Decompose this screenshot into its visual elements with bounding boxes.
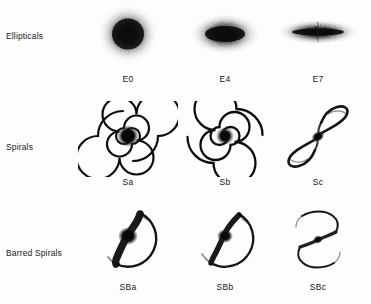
- row-spirals: Spirals: [0, 101, 371, 202]
- row-ellipticals: Ellipticals: [0, 0, 371, 101]
- spiral-galaxy-sc-icon: [268, 101, 368, 177]
- cell-sba: SBa: [78, 203, 178, 304]
- cell-sc: Sc: [268, 101, 368, 202]
- type-label-e7: E7: [268, 74, 368, 84]
- cell-sa: Sa: [78, 101, 178, 202]
- type-label-e0: E0: [78, 74, 178, 84]
- cell-e7: E7: [268, 0, 368, 101]
- type-label-sba: SBa: [78, 282, 178, 292]
- type-label-sb: Sb: [175, 177, 275, 187]
- type-label-sbb: SBb: [175, 282, 275, 292]
- barred-spiral-galaxy-sba-icon: [78, 203, 178, 279]
- type-label-sc: Sc: [268, 177, 368, 187]
- barred-spiral-galaxy-sbc-icon: [268, 203, 368, 279]
- type-label-sbc: SBc: [268, 282, 368, 292]
- cell-sbb: SBb: [175, 203, 275, 304]
- cell-e0: E0: [78, 0, 178, 101]
- elliptical-galaxy-e4-icon: [175, 0, 275, 76]
- row-barred-spirals: Barred Spirals: [0, 203, 371, 304]
- elliptical-galaxy-e0-icon: [78, 0, 178, 76]
- type-label-e4: E4: [175, 74, 275, 84]
- barred-spiral-galaxy-sbb-icon: [175, 203, 275, 279]
- spiral-galaxy-sb-icon: [175, 101, 275, 177]
- cell-sbc: SBc: [268, 203, 368, 304]
- cell-e4: E4: [175, 0, 275, 101]
- elliptical-galaxy-e7-icon: [268, 0, 368, 76]
- spiral-galaxy-sa-icon: [78, 101, 178, 177]
- hubble-classification-figure: Ellipticals: [0, 0, 371, 304]
- cell-sb: Sb: [175, 101, 275, 202]
- type-label-sa: Sa: [78, 177, 178, 187]
